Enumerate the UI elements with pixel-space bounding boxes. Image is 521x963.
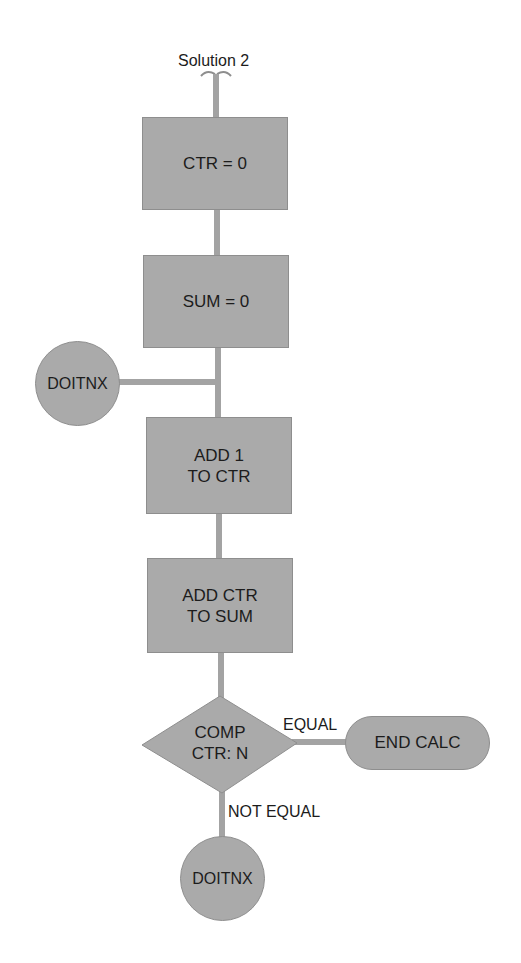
process-label-line1: ADD 1: [188, 445, 251, 466]
connector-not-equal: [219, 790, 225, 838]
process-add-ctr: ADD 1 TO CTR: [146, 417, 292, 514]
process-ctr-init: CTR = 0: [142, 117, 288, 210]
connector-doitnx-entry-node: DOITNX: [35, 341, 120, 426]
decision-compare: COMP CTR: N: [170, 722, 270, 764]
connector-addsum-to-compare: [218, 652, 224, 698]
connector-start-to-ctr: [213, 74, 219, 118]
decision-label-line1: COMP: [170, 722, 270, 743]
connector-label: DOITNX: [192, 870, 252, 888]
edge-label-equal: EQUAL: [283, 716, 337, 734]
process-label-line2: TO SUM: [182, 606, 258, 627]
connector-doitnx-entry: [118, 379, 218, 385]
connector-label: DOITNX: [47, 375, 107, 393]
process-label: SUM = 0: [183, 291, 250, 312]
process-sum-init: SUM = 0: [143, 255, 289, 348]
terminal-label: END CALC: [375, 733, 461, 753]
connector-doitnx-exit-node: DOITNX: [180, 836, 265, 921]
process-label: CTR = 0: [183, 153, 247, 174]
decision-label-line2: CTR: N: [170, 743, 270, 764]
connector-add-to-addsum: [216, 513, 222, 559]
edge-label-not-equal: NOT EQUAL: [228, 803, 320, 821]
process-label-line2: TO CTR: [188, 466, 251, 487]
connector-ctr-to-sum: [214, 209, 220, 256]
connector-equal: [292, 739, 348, 745]
process-label-line1: ADD CTR: [182, 585, 258, 606]
terminal-end-calc: END CALC: [345, 716, 490, 770]
process-add-sum: ADD CTR TO SUM: [147, 558, 293, 653]
